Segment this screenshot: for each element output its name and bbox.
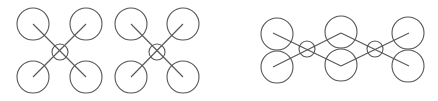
hub-circle <box>149 44 165 60</box>
hexa-coaxial-chain <box>261 16 424 83</box>
hub-circle <box>52 44 68 60</box>
rotor-circle <box>325 49 357 81</box>
rotor-circle <box>261 18 293 50</box>
diagram-canvas <box>0 0 438 101</box>
rotor-circle <box>261 51 293 83</box>
rotor-circle <box>325 16 357 48</box>
multirotor-frames-diagram <box>0 0 438 101</box>
quad-x-frame-1 <box>17 8 102 93</box>
quad-x-frame-2 <box>115 8 199 93</box>
